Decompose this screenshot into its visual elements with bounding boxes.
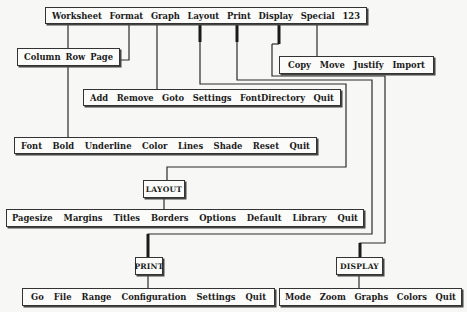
layout-title: LAYOUT xyxy=(146,185,182,194)
main-menu-123[interactable]: 123 xyxy=(342,11,359,21)
format-underline[interactable]: Underline xyxy=(85,141,132,151)
layout-borders[interactable]: Borders xyxy=(151,213,188,223)
layout-default[interactable]: Default xyxy=(247,213,282,223)
format-color[interactable]: Color xyxy=(142,141,167,151)
main-menu-print[interactable]: Print xyxy=(227,11,251,21)
graph-submenu: Add Remove Goto Settings FontDirectory Q… xyxy=(83,89,341,106)
print-quit[interactable]: Quit xyxy=(246,292,266,302)
main-menu-format[interactable]: Format xyxy=(110,11,144,21)
graph-quit[interactable]: Quit xyxy=(314,93,334,103)
main-menu-display[interactable]: Display xyxy=(258,11,293,21)
graph-goto[interactable]: Goto xyxy=(162,93,184,103)
display-title-box: DISPLAY xyxy=(336,257,383,275)
display-colors[interactable]: Colors xyxy=(397,292,427,302)
layout-library[interactable]: Library xyxy=(293,213,327,223)
print-submenu: Go File Range Configuration Settings Qui… xyxy=(22,288,275,306)
main-menu-graph[interactable]: Graph xyxy=(151,11,180,21)
display-quit[interactable]: Quit xyxy=(436,292,456,302)
display-mode[interactable]: Mode xyxy=(285,292,311,302)
worksheet-row[interactable]: Row xyxy=(66,52,86,62)
print-title: PRINT xyxy=(134,262,163,271)
print-range[interactable]: Range xyxy=(82,292,112,302)
special-copy[interactable]: Copy xyxy=(288,60,311,70)
layout-quit[interactable]: Quit xyxy=(338,213,358,223)
display-submenu: Mode Zoom Graphs Colors Quit xyxy=(279,288,462,306)
graph-add[interactable]: Add xyxy=(90,93,108,103)
format-font[interactable]: Font xyxy=(21,141,42,151)
layout-options[interactable]: Options xyxy=(199,213,236,223)
print-settings[interactable]: Settings xyxy=(197,292,236,302)
print-go[interactable]: Go xyxy=(31,292,44,302)
format-lines[interactable]: Lines xyxy=(178,141,203,151)
format-quit[interactable]: Quit xyxy=(290,141,310,151)
main-menu-layout[interactable]: Layout xyxy=(188,11,220,21)
print-configuration[interactable]: Configuration xyxy=(121,292,186,302)
connector-lines xyxy=(0,0,467,312)
format-bold[interactable]: Bold xyxy=(53,141,75,151)
graph-fontdirectory[interactable]: FontDirectory xyxy=(240,93,305,103)
special-import[interactable]: Import xyxy=(392,60,425,70)
main-menu-worksheet[interactable]: Worksheet xyxy=(52,11,102,21)
print-file[interactable]: File xyxy=(54,292,72,302)
menu-tree-diagram: Worksheet Format Graph Layout Print Disp… xyxy=(0,0,467,312)
layout-margins[interactable]: Margins xyxy=(64,213,103,223)
format-submenu: Font Bold Underline Color Lines Shade Re… xyxy=(14,137,317,154)
display-title: DISPLAY xyxy=(340,262,379,271)
layout-pagesize[interactable]: Pagesize xyxy=(12,213,53,223)
format-shade[interactable]: Shade xyxy=(214,141,243,151)
worksheet-column[interactable]: Column xyxy=(24,52,60,62)
special-justify[interactable]: Justify xyxy=(353,60,383,70)
graph-settings[interactable]: Settings xyxy=(193,93,232,103)
layout-title-box: LAYOUT xyxy=(143,180,185,198)
special-move[interactable]: Move xyxy=(320,60,345,70)
layout-submenu: Pagesize Margins Titles Borders Options … xyxy=(6,209,364,227)
format-reset[interactable]: Reset xyxy=(253,141,279,151)
main-menu-bar: Worksheet Format Graph Layout Print Disp… xyxy=(45,7,367,24)
layout-titles[interactable]: Titles xyxy=(114,213,141,223)
display-graphs[interactable]: Graphs xyxy=(354,292,388,302)
graph-remove[interactable]: Remove xyxy=(117,93,154,103)
special-submenu: Copy Move Justify Import xyxy=(279,56,434,74)
display-zoom[interactable]: Zoom xyxy=(320,292,346,302)
main-menu-special[interactable]: Special xyxy=(301,11,335,21)
print-title-box: PRINT xyxy=(135,257,163,275)
worksheet-submenu: Column Row Page xyxy=(17,48,120,66)
worksheet-page[interactable]: Page xyxy=(90,52,113,62)
